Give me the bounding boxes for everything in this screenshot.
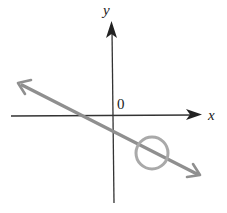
x-axis-label: x <box>207 107 215 123</box>
x-axis <box>11 109 202 120</box>
origin-label: 0 <box>117 96 125 112</box>
highlight-circle <box>136 137 168 169</box>
sloped-line <box>18 80 200 177</box>
y-axis-label: y <box>101 2 110 18</box>
coordinate-diagram: y x 0 <box>0 0 227 213</box>
y-axis <box>106 21 117 203</box>
